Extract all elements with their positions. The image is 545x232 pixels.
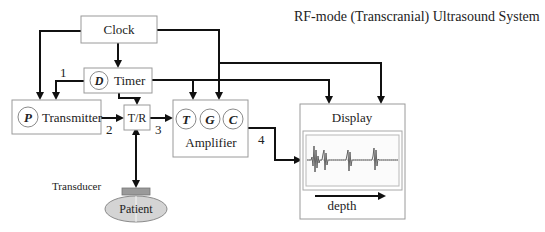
transmitter-block: P Transmitter xyxy=(12,100,103,134)
timer-symbol: D xyxy=(94,74,104,88)
tr-switch-label: T/R xyxy=(128,111,147,125)
transducer-probe-icon xyxy=(122,188,150,195)
depth-label: depth xyxy=(328,198,357,213)
signal-label-2: 2 xyxy=(106,122,113,137)
diagram-title: RF-mode (Transcranial) Ultrasound System xyxy=(294,9,540,25)
wire-timer-to-display xyxy=(152,80,329,102)
wire-clock-to-display xyxy=(219,63,381,102)
amp-symbol-c: C xyxy=(229,112,238,127)
display-label: Display xyxy=(332,110,373,125)
patient-block: Patient xyxy=(105,188,167,222)
ultrasound-block-diagram: RF-mode (Transcranial) Ultrasound System… xyxy=(0,0,545,232)
timer-block: D Timer xyxy=(84,68,152,93)
tr-switch-block: T/R xyxy=(124,105,150,130)
wire-amplifier-to-display xyxy=(248,128,300,160)
amp-symbol-t: T xyxy=(182,112,191,127)
signal-label-1: 1 xyxy=(60,65,67,80)
patient-label: Patient xyxy=(119,202,153,216)
transducer-label: Transducer xyxy=(52,180,101,192)
wire-clock-to-amplifier xyxy=(157,30,219,98)
wire-timer-to-transmitter xyxy=(56,81,84,98)
wire-timer-to-tr xyxy=(119,93,137,103)
timer-label: Timer xyxy=(114,73,146,88)
signal-label-3: 3 xyxy=(155,122,162,137)
clock-label: Clock xyxy=(103,22,135,37)
signal-label-4: 4 xyxy=(258,132,265,147)
display-block: Display depth xyxy=(300,104,405,219)
transmitter-symbol: P xyxy=(24,110,33,125)
amplifier-block: T G C Amplifier xyxy=(173,100,248,157)
amp-symbol-g: G xyxy=(205,112,215,127)
amplifier-label: Amplifier xyxy=(185,135,237,150)
clock-block: Clock xyxy=(81,16,157,43)
transmitter-label: Transmitter xyxy=(42,110,103,125)
